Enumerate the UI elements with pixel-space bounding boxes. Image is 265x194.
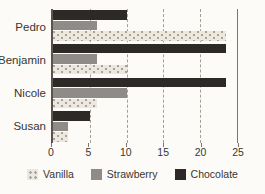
bar-vanilla <box>53 65 127 75</box>
category-label: Nicole <box>0 76 51 109</box>
bar-chart: PedroBenjaminNicoleSusan 0510152025 Vani… <box>0 0 265 194</box>
legend-item-strawberry: Strawberry <box>91 168 158 180</box>
bar-vanilla <box>53 99 97 109</box>
x-tick-label: 0 <box>48 146 54 158</box>
bar-chocolate <box>53 10 127 20</box>
bar-vanilla <box>53 132 68 142</box>
category-label: Benjamin <box>0 43 51 76</box>
bar-chocolate <box>53 44 226 54</box>
y-axis-labels: PedroBenjaminNicoleSusan <box>0 9 51 143</box>
bar-group <box>53 44 237 75</box>
x-tick-label: 25 <box>232 146 244 158</box>
bar-group <box>53 78 237 109</box>
plot-area <box>51 9 238 143</box>
bar-vanilla <box>53 31 226 41</box>
bar-strawberry <box>53 54 97 64</box>
legend-swatch-chocolate <box>175 169 186 180</box>
bar-strawberry <box>53 122 68 132</box>
x-tick-label: 10 <box>120 146 132 158</box>
x-axis: 0510152025 <box>51 143 238 161</box>
bar-strawberry <box>53 21 97 31</box>
x-tick-label: 15 <box>157 146 169 158</box>
legend-swatch-strawberry <box>91 169 102 180</box>
bar-chocolate <box>53 78 226 88</box>
legend-item-chocolate: Chocolate <box>175 168 238 180</box>
bars-layer <box>53 9 237 143</box>
legend-label: Vanilla <box>43 168 74 180</box>
bar-strawberry <box>53 88 127 98</box>
legend-swatch-vanilla <box>27 169 38 180</box>
category-label: Pedro <box>0 10 51 43</box>
chart-plot-wrapper: PedroBenjaminNicoleSusan <box>0 9 238 143</box>
bar-chocolate <box>53 111 90 121</box>
x-tick-label: 5 <box>85 146 91 158</box>
category-label: Susan <box>0 109 51 142</box>
legend: VanillaStrawberryChocolate <box>0 168 265 180</box>
bar-group <box>53 111 237 142</box>
x-tick-label: 20 <box>195 146 207 158</box>
bar-group <box>53 10 237 41</box>
legend-label: Strawberry <box>107 168 158 180</box>
legend-item-vanilla: Vanilla <box>27 168 74 180</box>
legend-label: Chocolate <box>191 168 238 180</box>
